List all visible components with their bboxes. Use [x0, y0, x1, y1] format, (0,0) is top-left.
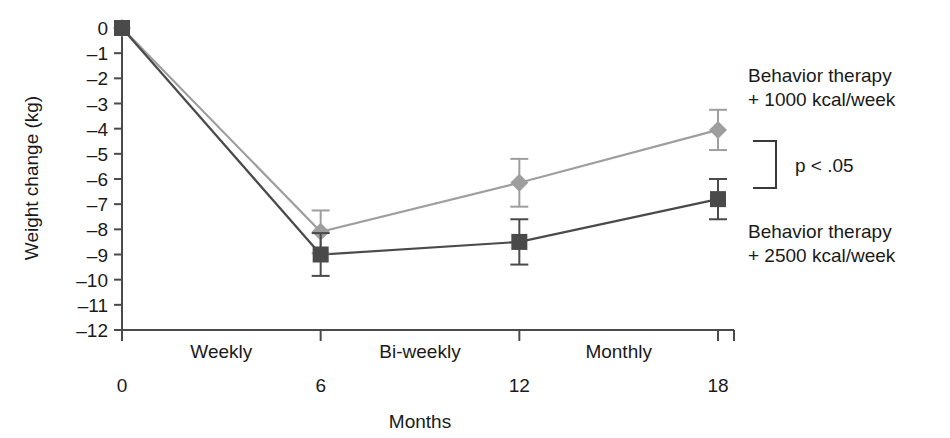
- legend-label-1000-line2: + 1000 kcal/week: [748, 89, 896, 110]
- data-point-square: [511, 234, 527, 250]
- data-point-diamond: [510, 174, 528, 192]
- y-tick-label: –6: [87, 169, 108, 190]
- y-tick-labels: 0–1–2–3–4–5–6–7–8–9–10–11–12: [76, 18, 122, 341]
- phase-label: Weekly: [190, 341, 252, 362]
- data-series: [113, 19, 727, 276]
- y-tick-label: –10: [76, 270, 108, 291]
- phase-labels: WeeklyBi-weeklyMonthly: [190, 341, 652, 362]
- legend-label-1000-line1: Behavior therapy: [748, 65, 892, 86]
- x-axis-title: Months: [389, 411, 451, 432]
- y-tick-label: –8: [87, 219, 108, 240]
- axes: [122, 26, 734, 330]
- data-point-square: [114, 20, 130, 36]
- y-tick-label: –7: [87, 194, 108, 215]
- y-axis-title: Weight change (kg): [21, 96, 42, 260]
- data-point-diamond: [709, 121, 727, 139]
- x-tick-label: 12: [509, 375, 530, 396]
- p-value-label: p < .05: [795, 155, 854, 176]
- y-tick-label: –9: [87, 245, 108, 266]
- legend-label-2500-line2: + 2500 kcal/week: [748, 245, 896, 266]
- data-point-square: [710, 191, 726, 207]
- y-tick-label: –12: [76, 320, 108, 341]
- series-line: [122, 28, 718, 255]
- y-tick-label: –4: [87, 119, 109, 140]
- x-tick-label: 0: [117, 375, 128, 396]
- legend-label-2500-line1: Behavior therapy: [748, 221, 892, 242]
- y-tick-label: –1: [87, 43, 108, 64]
- significance-bracket: [753, 141, 776, 188]
- y-tick-label: –11: [78, 295, 108, 316]
- x-tick-label: 18: [707, 375, 728, 396]
- y-tick-label: 0: [97, 18, 108, 39]
- weight-change-line-chart: 0–1–2–3–4–5–6–7–8–9–10–11–12 061218 Week…: [0, 0, 950, 438]
- y-tick-label: –3: [87, 94, 108, 115]
- x-tick-labels: 061218: [117, 330, 734, 396]
- y-tick-label: –2: [87, 68, 108, 89]
- chart-figure: 0–1–2–3–4–5–6–7–8–9–10–11–12 061218 Week…: [0, 0, 950, 438]
- phase-label: Monthly: [585, 341, 652, 362]
- y-tick-label: –5: [87, 144, 108, 165]
- data-point-square: [313, 247, 329, 263]
- x-tick-label: 6: [315, 375, 326, 396]
- phase-label: Bi-weekly: [379, 341, 461, 362]
